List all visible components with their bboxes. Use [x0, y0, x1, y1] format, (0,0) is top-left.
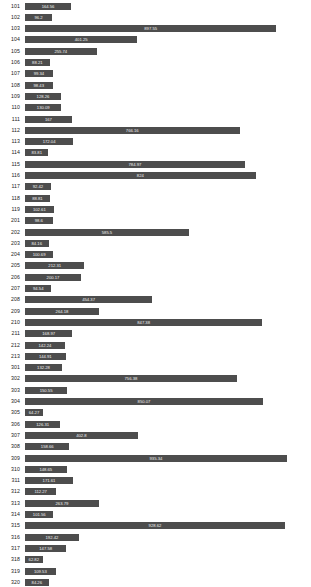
- bar: 850.07: [25, 398, 263, 405]
- category-label: 314: [0, 509, 20, 520]
- bar-container: 130.09: [25, 104, 61, 111]
- bar: 130.09: [25, 104, 61, 111]
- category-label: 114: [0, 147, 20, 158]
- bar: 263.79: [25, 500, 99, 507]
- bar: 102.61: [25, 206, 54, 213]
- bar-container: 148.65: [25, 466, 67, 473]
- bar-container: 62.82: [25, 556, 43, 563]
- bar-container: 200.17: [25, 274, 81, 281]
- bar-value-label: 171.61: [25, 477, 73, 484]
- bar-value-label: 850.07: [25, 398, 263, 405]
- bar: 147.58: [25, 545, 66, 552]
- bar: 167: [25, 116, 72, 123]
- bar: 99.34: [25, 70, 53, 77]
- bar-value-label: 264.18: [25, 308, 99, 315]
- bar-value-label: 401.25: [25, 36, 137, 43]
- bar-value-label: 454.37: [25, 296, 152, 303]
- bar-container: 171.61: [25, 477, 73, 484]
- category-label: 204: [0, 249, 20, 260]
- category-label: 208: [0, 294, 20, 305]
- bar-container: 84.16: [25, 240, 49, 247]
- bar-value-label: 928.62: [25, 522, 285, 529]
- chart-row: 11792.42: [0, 181, 311, 192]
- bar: 84.26: [25, 579, 49, 586]
- chart-row: 303150.55: [0, 385, 311, 396]
- category-label: 320: [0, 577, 20, 587]
- bar-value-label: 148.65: [25, 466, 67, 473]
- chart-row: 31862.82: [0, 554, 311, 565]
- chart-row: 205212.31: [0, 260, 311, 271]
- bar-value-label: 98.6: [25, 217, 53, 224]
- bar-container: 142.24: [25, 342, 65, 349]
- category-label: 202: [0, 227, 20, 238]
- chart-row: 32084.26: [0, 577, 311, 587]
- bar-value-label: 168.97: [25, 330, 72, 337]
- bar: 88.81: [25, 195, 50, 202]
- chart-row: 313263.79: [0, 498, 311, 509]
- bar-container: 756.38: [25, 375, 237, 382]
- bar-container: 99.34: [25, 70, 53, 77]
- bar: 158.66: [25, 443, 69, 450]
- bar: 109.53: [25, 568, 56, 575]
- bar-value-label: 98.43: [25, 82, 53, 89]
- bar: 402.8: [25, 432, 138, 439]
- bar-value-label: 150.55: [25, 387, 67, 394]
- category-label: 308: [0, 441, 20, 452]
- bar: 64.27: [25, 409, 43, 416]
- bar-value-label: 255.74: [25, 48, 97, 55]
- chart-row: 212142.24: [0, 340, 311, 351]
- bar: 88.21: [25, 59, 50, 66]
- bar-container: 454.37: [25, 296, 152, 303]
- chart-row: 319109.53: [0, 566, 311, 577]
- category-label: 206: [0, 272, 20, 283]
- chart-row: 11888.81: [0, 193, 311, 204]
- chart-row: 302756.38: [0, 373, 311, 384]
- bar-container: 935.34: [25, 455, 287, 462]
- bar-container: 824: [25, 172, 256, 179]
- bar-value-label: 102.61: [25, 206, 54, 213]
- chart-row: 20794.54: [0, 283, 311, 294]
- category-label: 317: [0, 543, 20, 554]
- chart-row: 11483.81: [0, 147, 311, 158]
- category-label: 116: [0, 170, 20, 181]
- bar-container: 147.58: [25, 545, 66, 552]
- bar-value-label: 167: [25, 116, 72, 123]
- bar: 756.38: [25, 375, 237, 382]
- chart-row: 213144.91: [0, 351, 311, 362]
- bar-container: 264.18: [25, 308, 99, 315]
- bar: 83.81: [25, 149, 48, 156]
- chart-row: 315928.62: [0, 520, 311, 531]
- category-label: 318: [0, 554, 20, 565]
- chart-row: 204100.69: [0, 249, 311, 260]
- bar: 62.82: [25, 556, 43, 563]
- chart-row: 10688.21: [0, 57, 311, 68]
- chart-row: 211168.97: [0, 328, 311, 339]
- chart-row: 304850.07: [0, 396, 311, 407]
- category-label: 212: [0, 340, 20, 351]
- bar: 897.55: [25, 25, 276, 32]
- bar: 94.54: [25, 285, 51, 292]
- bar-container: 585.5: [25, 229, 189, 236]
- category-label: 107: [0, 68, 20, 79]
- category-label: 309: [0, 453, 20, 464]
- bar-container: 98.6: [25, 217, 53, 224]
- bar-container: 847.38: [25, 319, 262, 326]
- bar-container: 766.16: [25, 127, 240, 134]
- bar-container: 94.54: [25, 285, 51, 292]
- bar: 84.16: [25, 240, 49, 247]
- chart-row: 209264.18: [0, 306, 311, 317]
- category-label: 117: [0, 181, 20, 192]
- chart-row: 210847.38: [0, 317, 311, 328]
- chart-row: 30564.27: [0, 407, 311, 418]
- bar-container: 928.62: [25, 522, 285, 529]
- category-label: 109: [0, 91, 20, 102]
- bar-container: 150.55: [25, 387, 67, 394]
- bar-value-label: 64.27: [25, 409, 43, 416]
- bar: 148.65: [25, 466, 67, 473]
- bar: 101.56: [25, 511, 53, 518]
- chart-row: 301132.28: [0, 362, 311, 373]
- bar: 255.74: [25, 48, 97, 55]
- bar-value-label: 766.16: [25, 127, 240, 134]
- bar-container: 144.91: [25, 353, 66, 360]
- chart-row: 316192.42: [0, 532, 311, 543]
